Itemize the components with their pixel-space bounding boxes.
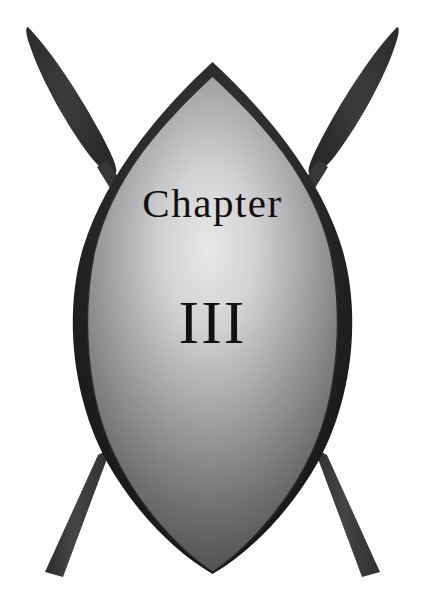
chapter-emblem: Chapter III bbox=[0, 0, 425, 611]
spear-right-shaft-lower bbox=[314, 448, 380, 577]
chapter-word-label: Chapter bbox=[142, 180, 282, 226]
chapter-number-label: III bbox=[179, 288, 247, 356]
spear-left-blade bbox=[26, 27, 116, 174]
spear-right-blade bbox=[309, 27, 399, 174]
spear-left-shaft-lower bbox=[45, 448, 111, 577]
emblem-illustration: Chapter III bbox=[0, 0, 425, 611]
